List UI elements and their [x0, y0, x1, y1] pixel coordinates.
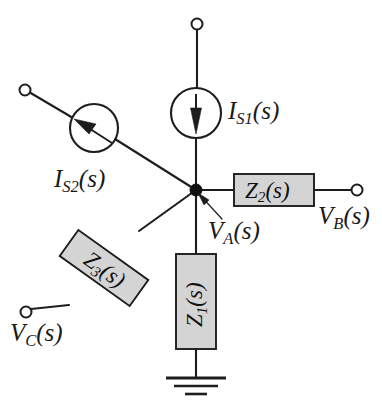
current-source-is2[interactable] [70, 104, 118, 152]
label-vb: VB(s) [318, 203, 370, 232]
label-z1: Z1(s) [183, 263, 208, 347]
terminal-top[interactable] [192, 19, 203, 30]
circuit-diagram: IS1(s) IS2(s) VA(s) VB(s) VC(s) Z2(s) Z1… [0, 0, 382, 410]
label-z2: Z2(s) [245, 179, 290, 204]
terminal-vc[interactable] [21, 307, 32, 318]
label-is1: IS1(s) [228, 98, 279, 127]
label-va: VA(s) [208, 218, 260, 247]
wire-source2-to-node [115, 139, 196, 190]
wire-node-to-z3 [139, 190, 196, 231]
terminal-upper-left[interactable] [20, 85, 31, 96]
label-vc: VC(s) [10, 320, 63, 349]
label-is2: IS2(s) [54, 166, 105, 195]
wire-upperleft-terminal-to-source2 [29, 92, 73, 118]
terminal-vb[interactable] [352, 185, 363, 196]
wire-z3-to-vc-terminal [31, 305, 69, 309]
